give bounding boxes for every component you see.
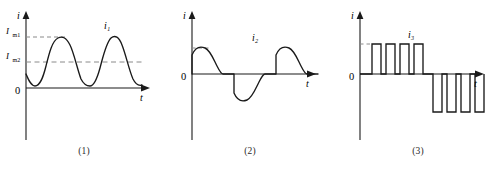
y-axis-label: i [351,10,354,21]
x-axis-arrowhead [141,85,150,92]
figure-sheet: i t 0 I m1 I m2 i₁ (1) [0,0,502,172]
y-axis-label: i [17,10,20,21]
panel-2-plot: i t 0 i₂ [166,0,334,145]
chart-panel-1: i t 0 I m1 I m2 i₁ (1) [0,0,168,172]
panel-1-svg: i t 0 I m1 I m2 i₁ [0,0,168,145]
level-label-im1: I [5,26,10,36]
panel-2-caption: (2) [166,146,334,156]
y-axis-arrowhead [189,11,196,19]
panel-1-plot: i t 0 I m1 I m2 i₁ [0,0,168,145]
x-axis-arrowhead [475,71,484,78]
curve-label-i1: i₁ [104,20,110,31]
curve-label-i2: i₂ [252,32,259,43]
waveform-i1 [26,36,142,86]
x-axis-label: t [306,78,309,89]
panel-2-svg: i t 0 i₂ [166,0,334,145]
y-axis-label: i [183,10,186,21]
panel-3-caption: (3) [334,146,502,156]
origin-label: 0 [181,71,186,82]
origin-label: 0 [349,71,354,82]
level-label-im2-sub: m2 [13,57,21,63]
level-label-im1-sub: m1 [13,32,21,38]
panel-3-svg: i t 0 i₃ [334,0,502,145]
origin-label: 0 [15,85,20,96]
x-axis-label: t [140,92,143,103]
y-axis-arrowhead [357,11,364,19]
x-axis-label: t [474,78,477,89]
chart-panel-3: i t 0 i₃ (3) [334,0,502,172]
chart-panel-2: i t 0 i₂ (2) [166,0,334,172]
curve-label-i3: i₃ [408,29,415,40]
level-label-im2: I [5,51,10,61]
y-axis-arrowhead [23,11,30,19]
panel-3-plot: i t 0 i₃ [334,0,502,145]
waveform-i3-positive [360,44,428,74]
panel-1-caption: (1) [0,146,168,156]
